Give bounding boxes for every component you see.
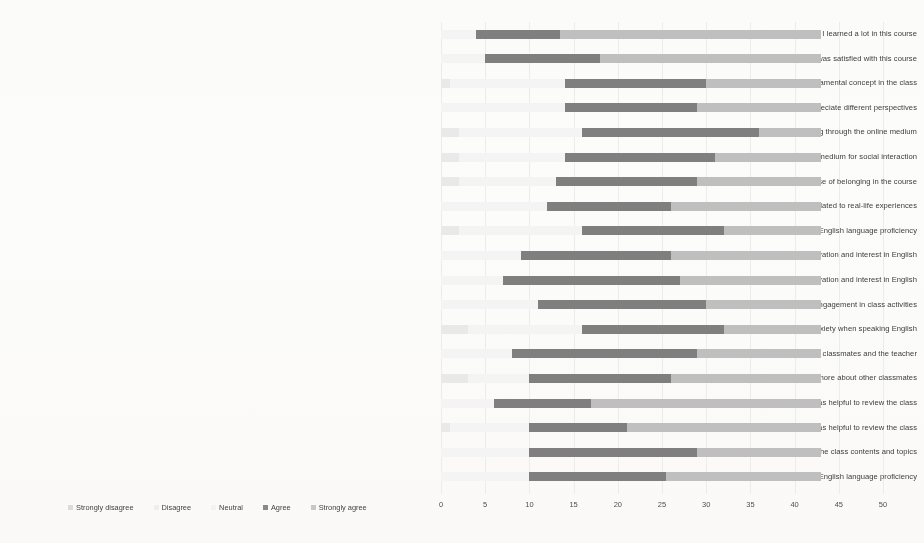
bar-segment-agree[interactable] (476, 30, 560, 39)
stacked-bar[interactable] (441, 300, 821, 309)
bar-segment-strongly-agree[interactable] (724, 226, 821, 235)
bar-row: 9. Online learning has increased my moti… (0, 268, 924, 292)
bar-segment-neutral[interactable] (450, 423, 530, 432)
bar-segment-strongly-disagree[interactable] (441, 177, 459, 186)
bar-segment-neutral[interactable] (441, 448, 529, 457)
bar-segment-strongly-agree[interactable] (560, 30, 821, 39)
bar-segment-strongly-disagree[interactable] (441, 374, 468, 383)
bar-segment-neutral[interactable] (441, 202, 547, 211)
bar-segment-strongly-agree[interactable] (715, 153, 821, 162)
bar-segment-strongly-disagree[interactable] (441, 423, 450, 432)
bar-segment-agree[interactable] (565, 103, 698, 112)
bar-segment-strongly-agree[interactable] (759, 128, 821, 137)
bar-segment-strongly-agree[interactable] (706, 79, 821, 88)
bar-segment-neutral[interactable] (459, 153, 565, 162)
bar-segment-strongly-agree[interactable] (724, 325, 821, 334)
bar-segment-neutral[interactable] (441, 276, 503, 285)
bar-row: 18. Overall, I was satisfied with this c… (0, 47, 924, 71)
bar-segment-neutral[interactable] (441, 349, 512, 358)
bar-segment-neutral[interactable] (459, 177, 556, 186)
bar-segment-agree[interactable] (529, 374, 670, 383)
bar-segment-strongly-disagree[interactable] (441, 153, 459, 162)
bar-segment-strongly-agree[interactable] (697, 448, 821, 457)
bar-segment-strongly-disagree[interactable] (441, 226, 459, 235)
bar-segment-strongly-agree[interactable] (697, 103, 821, 112)
bar-segment-neutral[interactable] (441, 30, 476, 39)
x-axis-tick-label: 30 (702, 500, 710, 509)
stacked-bar[interactable] (441, 54, 821, 63)
stacked-bar[interactable] (441, 448, 821, 457)
bar-segment-neutral[interactable] (459, 128, 583, 137)
stacked-bar[interactable] (441, 251, 821, 260)
bar-segment-agree[interactable] (547, 202, 671, 211)
bar-segment-strongly-disagree[interactable] (441, 325, 468, 334)
bar-segment-neutral[interactable] (441, 103, 565, 112)
x-axis-tick-label: 20 (614, 500, 622, 509)
stacked-bar[interactable] (441, 79, 821, 88)
bar-segment-strongly-agree[interactable] (627, 423, 821, 432)
bar-segment-strongly-disagree[interactable] (441, 79, 450, 88)
bar-segment-agree[interactable] (582, 128, 759, 137)
legend-label: Agree (271, 503, 291, 512)
bar-segment-neutral[interactable] (441, 399, 494, 408)
bar-segment-neutral[interactable] (468, 325, 583, 334)
x-axis-tick-label: 45 (835, 500, 843, 509)
stacked-bar[interactable] (441, 423, 821, 432)
legend-item-disagree[interactable]: Disagree (154, 503, 192, 512)
legend-item-strongly-disagree[interactable]: Strongly disagree (68, 503, 134, 512)
bar-segment-agree[interactable] (556, 177, 697, 186)
bar-segment-neutral[interactable] (468, 374, 530, 383)
chart-legend: Strongly disagreeDisagreeNeutralAgreeStr… (68, 503, 367, 512)
bar-segment-strongly-agree[interactable] (671, 251, 821, 260)
bar-segment-neutral[interactable] (459, 226, 583, 235)
stacked-bar[interactable] (441, 276, 821, 285)
bar-segment-neutral[interactable] (441, 251, 521, 260)
bar-segment-agree[interactable] (512, 349, 698, 358)
bar-segment-strongly-agree[interactable] (697, 349, 821, 358)
bar-segment-strongly-agree[interactable] (591, 399, 821, 408)
bar-segment-strongly-agree[interactable] (666, 472, 821, 481)
bar-segment-strongly-agree[interactable] (697, 177, 821, 186)
bar-segment-agree[interactable] (565, 79, 706, 88)
bar-segment-strongly-agree[interactable] (706, 300, 821, 309)
bar-segment-neutral[interactable] (441, 472, 529, 481)
x-axis-tick-label: 40 (790, 500, 798, 509)
bar-segment-agree[interactable] (582, 325, 723, 334)
bar-segment-agree[interactable] (565, 153, 715, 162)
bar-wrapper (441, 120, 821, 144)
stacked-bar[interactable] (441, 177, 821, 186)
bar-segment-agree[interactable] (521, 251, 671, 260)
bar-segment-agree[interactable] (529, 472, 666, 481)
legend-item-agree[interactable]: Agree (263, 503, 291, 512)
stacked-bar[interactable] (441, 202, 821, 211)
bar-segment-strongly-agree[interactable] (671, 202, 821, 211)
stacked-bar[interactable] (441, 153, 821, 162)
bar-segment-agree[interactable] (485, 54, 600, 63)
stacked-bar[interactable] (441, 325, 821, 334)
stacked-bar[interactable] (441, 30, 821, 39)
stacked-bar[interactable] (441, 399, 821, 408)
stacked-bar[interactable] (441, 103, 821, 112)
legend-item-neutral[interactable]: Neutral (211, 503, 243, 512)
bar-segment-strongly-agree[interactable] (680, 276, 821, 285)
bar-segment-agree[interactable] (494, 399, 591, 408)
bar-segment-agree[interactable] (529, 423, 626, 432)
bar-segment-agree[interactable] (582, 226, 723, 235)
stacked-bar[interactable] (441, 349, 821, 358)
bar-segment-strongly-agree[interactable] (600, 54, 821, 63)
legend-item-strongly-agree[interactable]: Strongly agree (311, 503, 367, 512)
bar-wrapper (441, 366, 821, 390)
bar-segment-neutral[interactable] (441, 54, 485, 63)
bar-segment-neutral[interactable] (450, 79, 565, 88)
bar-segment-agree[interactable] (503, 276, 680, 285)
stacked-bar[interactable] (441, 374, 821, 383)
bar-segment-strongly-agree[interactable] (671, 374, 821, 383)
stacked-bar[interactable] (441, 226, 821, 235)
bar-wrapper (441, 170, 821, 194)
bar-segment-strongly-disagree[interactable] (441, 128, 459, 137)
stacked-bar[interactable] (441, 128, 821, 137)
bar-segment-agree[interactable] (529, 448, 697, 457)
stacked-bar[interactable] (441, 472, 821, 481)
bar-segment-agree[interactable] (538, 300, 706, 309)
bar-segment-neutral[interactable] (441, 300, 538, 309)
